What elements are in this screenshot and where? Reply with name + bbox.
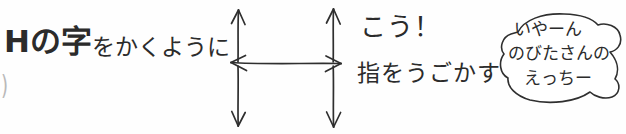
left-caption: Hの字をかくように <box>4 26 230 57</box>
horizontal-connector-arrow <box>231 56 341 72</box>
bubble-line-3: えっちー <box>524 70 592 87</box>
clipped-paren-fragment: ) <box>1 72 8 98</box>
right-caption-instruction: 指をうごかす <box>357 62 501 85</box>
arrow-diagram-svg <box>205 0 355 134</box>
speech-bubble: いやーん のびたさんの えっちー <box>494 4 626 108</box>
bubble-line-2: のびたさんの <box>508 45 610 62</box>
left-caption-heavy: Hの字 <box>4 23 92 59</box>
manga-panel-fragment: Hの字をかくように ) <box>0 0 626 134</box>
bubble-line-1: いやーん <box>514 21 582 38</box>
right-caption-exclaim: こう！ <box>360 14 441 40</box>
h-shaped-arrow-diagram <box>205 0 355 134</box>
